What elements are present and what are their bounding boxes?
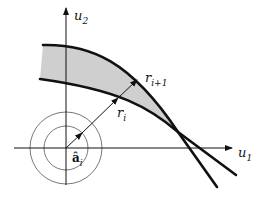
x-axis-label: u1 bbox=[238, 145, 252, 163]
r-i1-label: ri+1 bbox=[145, 70, 167, 88]
unit-vector-arrow bbox=[66, 133, 82, 148]
r-i-label: ri bbox=[117, 105, 126, 123]
shaded-region bbox=[40, 45, 178, 132]
unit-vector-label: âi bbox=[72, 151, 83, 168]
r-i-arrow bbox=[80, 98, 118, 135]
y-axis-label: u2 bbox=[74, 8, 88, 26]
diagram-canvas: u2 u1 ri ri+1 âi bbox=[0, 0, 266, 201]
